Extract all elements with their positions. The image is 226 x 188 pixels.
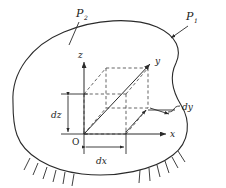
origin-label: O (72, 137, 79, 147)
dimension-dz-label: dz (51, 110, 62, 120)
axis-z-label: z (77, 50, 83, 60)
body-outline (13, 21, 188, 175)
axis-x-label: x (170, 129, 175, 139)
support-hatching-left (24, 158, 74, 186)
support-hatching-right (139, 151, 185, 183)
figure-canvas: P 2 P 1 (0, 0, 226, 188)
axis-y-line (84, 64, 150, 134)
dimension-dy-label: dy (182, 102, 194, 112)
p1-leader-arrow (171, 26, 188, 38)
surface-label-p1-subscript: 1 (194, 17, 198, 24)
axis-y-label: y (154, 56, 161, 66)
dimension-dx-label: dx (96, 156, 107, 166)
surface-label-p2: P (75, 7, 84, 20)
surface-label-p2-subscript: 2 (83, 14, 88, 21)
diagram-svg: P 2 P 1 (0, 0, 226, 188)
p2-leader-line (69, 22, 79, 45)
surface-label-p1: P (185, 10, 194, 23)
